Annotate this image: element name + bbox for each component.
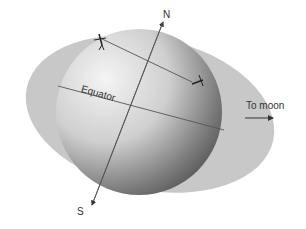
earth-sphere xyxy=(56,29,222,195)
to-moon-label: To moon xyxy=(246,100,284,111)
tidal-bulge-diagram xyxy=(0,0,306,229)
north-label: N xyxy=(163,9,170,20)
south-label: S xyxy=(77,206,84,217)
